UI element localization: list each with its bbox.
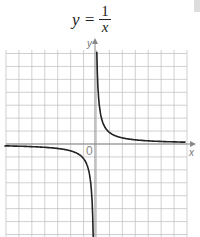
axes — [6, 38, 196, 237]
origin-label: 0 — [86, 144, 93, 158]
plot-area: y x 0 — [0, 0, 200, 237]
x-axis-label: x — [188, 147, 195, 158]
y-axis-label: y — [86, 38, 93, 49]
curve-negative-branch — [5, 146, 94, 237]
curve-positive-branch — [97, 52, 186, 143]
